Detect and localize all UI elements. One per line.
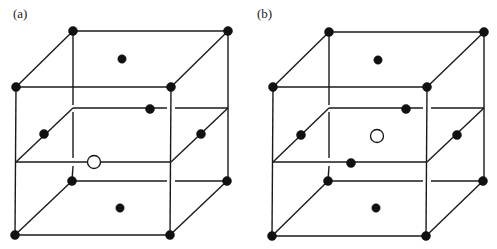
atom-filled [347, 159, 356, 168]
atom-filled [146, 105, 155, 114]
atom-filled [374, 56, 382, 64]
panel-a-label: (a) [13, 6, 27, 21]
atom-filled [372, 204, 380, 212]
atom-filled [422, 232, 431, 241]
atom-filled [166, 231, 175, 240]
panel-b: (b) [257, 6, 489, 241]
atom-filled [325, 28, 334, 37]
atom-open [371, 130, 384, 143]
atom-filled [479, 177, 488, 186]
edge [16, 31, 73, 87]
edge [15, 87, 16, 235]
atom-filled [69, 27, 78, 36]
atom-filled [224, 27, 233, 36]
atom-filled [223, 177, 232, 186]
atom-filled [269, 83, 278, 92]
edge [15, 181, 72, 235]
atom-filled [11, 231, 20, 240]
atom-filled [40, 130, 49, 139]
atom-filled [480, 28, 489, 37]
lattice-figure: (a) [0, 0, 497, 249]
edge [426, 87, 427, 236]
atom-filled [116, 204, 124, 212]
atom-filled [268, 232, 277, 241]
atom-filled [12, 83, 21, 92]
edge [427, 32, 484, 87]
atom-open [88, 156, 101, 169]
atom-filled [297, 131, 306, 140]
edge [273, 32, 329, 87]
edge [426, 181, 483, 236]
panel-a: (a) [11, 6, 233, 240]
edge [171, 31, 228, 87]
edge [170, 87, 171, 235]
edge [272, 181, 328, 236]
atom-filled [423, 83, 432, 92]
atom-filled [68, 177, 77, 186]
atom-filled [167, 83, 176, 92]
atom-filled [402, 105, 411, 114]
atom-filled [197, 130, 206, 139]
panel-b-label: (b) [257, 6, 272, 21]
edge [272, 87, 273, 236]
atom-filled [453, 131, 462, 140]
edge [170, 181, 227, 235]
atom-filled [118, 55, 126, 63]
atom-filled [324, 177, 333, 186]
